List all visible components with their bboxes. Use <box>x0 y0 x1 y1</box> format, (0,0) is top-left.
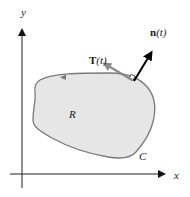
tangent-vector-label-arg: (t) <box>96 54 107 67</box>
region-label: R <box>68 108 76 120</box>
green-theorem-diagram: y x T(t) n(t) R C <box>0 0 190 197</box>
region-r <box>33 73 155 158</box>
x-axis-label: x <box>173 169 179 181</box>
y-axis-label: y <box>20 6 26 18</box>
tangent-vector-label: T(t) <box>89 54 107 67</box>
curve-label: C <box>139 150 147 162</box>
normal-vector-arrow <box>134 53 151 81</box>
normal-vector-label: n(t) <box>150 26 167 39</box>
normal-vector-label-arg: (t) <box>156 26 167 39</box>
